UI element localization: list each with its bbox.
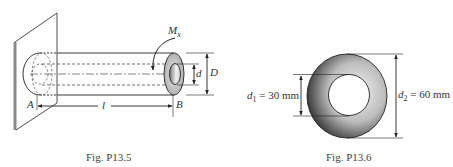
inner-diameter-label: d — [196, 67, 202, 79]
caption-fig-p13-5: Fig. P13.5 — [86, 151, 132, 163]
fixed-wall — [15, 13, 57, 130]
annulus-cross-section — [307, 54, 387, 138]
d1-label: d1 = 30 mm — [247, 89, 299, 104]
d2-label: d2 = 60 mm — [398, 88, 450, 103]
end-a-label: A — [27, 98, 34, 110]
outer-diameter-label: D — [210, 66, 218, 78]
diagram-canvas — [0, 0, 453, 167]
length-label: l — [102, 99, 105, 111]
moment-label: Mx — [168, 24, 181, 39]
hollow-shaft — [23, 53, 184, 95]
end-b-label: B — [176, 98, 183, 110]
caption-fig-p13-6: Fig. P13.6 — [326, 151, 372, 163]
